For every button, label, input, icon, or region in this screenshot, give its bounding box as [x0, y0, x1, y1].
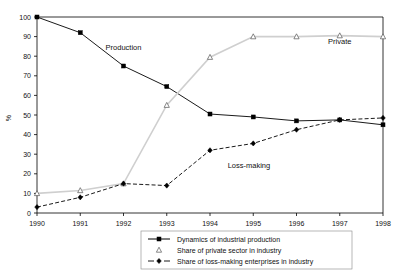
marker-square: [78, 31, 82, 35]
y-tick-label: 0: [27, 210, 31, 217]
marker-square: [208, 112, 212, 116]
x-tick-label: 1990: [29, 220, 45, 227]
legend-label: Share of private sector in industry: [177, 247, 282, 255]
marker-square: [251, 115, 255, 119]
marker-square: [122, 64, 126, 68]
y-tick-label: 30: [23, 151, 31, 158]
y-tick-label: 20: [23, 170, 31, 177]
x-tick-label: 1997: [332, 220, 348, 227]
y-axis-title: %: [5, 115, 12, 121]
marker-square: [295, 119, 299, 123]
x-tick-label: 1992: [116, 220, 132, 227]
series-annotation: Loss-making: [228, 161, 271, 170]
y-tick-label: 60: [23, 92, 31, 99]
legend-label: Share of loss-making enterprises in indu…: [177, 258, 314, 266]
x-tick-label: 1991: [72, 220, 88, 227]
series-annotation: Private: [328, 37, 351, 46]
marker-square: [381, 123, 385, 127]
y-tick-label: 100: [19, 14, 31, 21]
y-tick-label: 10: [23, 190, 31, 197]
y-tick-label: 90: [23, 33, 31, 40]
y-tick-label: 40: [23, 131, 31, 138]
x-tick-label: 1998: [375, 220, 391, 227]
chart-legend: Dynamics of industrial productionShare o…: [141, 231, 352, 269]
y-tick-label: 80: [23, 53, 31, 60]
x-tick-label: 1995: [245, 220, 261, 227]
x-tick-label: 1993: [159, 220, 175, 227]
chart-container: 0102030405060708090100 19901991199219931…: [0, 0, 404, 271]
y-tick-label: 70: [23, 72, 31, 79]
x-tick-label: 1996: [289, 220, 305, 227]
x-tick-label: 1994: [202, 220, 218, 227]
line-chart: 0102030405060708090100 19901991199219931…: [0, 0, 404, 271]
marker-square: [165, 85, 169, 89]
marker-square: [35, 15, 39, 19]
marker-square: [157, 237, 161, 241]
y-tick-label: 50: [23, 112, 31, 119]
series-annotation: Production: [106, 43, 142, 52]
legend-label: Dynamics of industrial production: [177, 236, 280, 244]
